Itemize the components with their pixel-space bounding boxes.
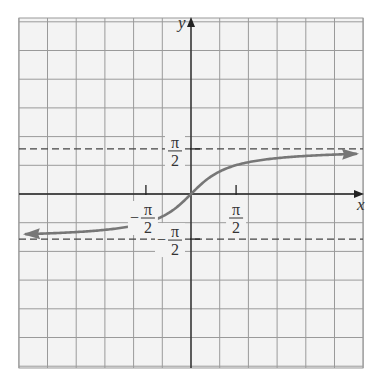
x-label-neg-pi-over-2-minus: − bbox=[130, 209, 139, 226]
arctan-graph: π2−π2π2π2−xy bbox=[0, 0, 372, 377]
x-label-pi-over-2-denominator: 2 bbox=[232, 219, 240, 236]
x-label-pi-over-2-numerator: π bbox=[232, 201, 240, 218]
y-label-pi-over-2-numerator: π bbox=[171, 134, 179, 151]
y-label-pi-over-2-denominator: 2 bbox=[171, 152, 179, 169]
y-label-neg-pi-over-2-minus: − bbox=[157, 231, 166, 248]
y-label-neg-pi-over-2-numerator: π bbox=[171, 223, 179, 240]
x-axis-label: x bbox=[356, 195, 365, 214]
x-label-neg-pi-over-2-numerator: π bbox=[144, 201, 152, 218]
y-label-neg-pi-over-2-denominator: 2 bbox=[171, 241, 179, 258]
x-label-neg-pi-over-2-denominator: 2 bbox=[144, 219, 152, 236]
y-axis-label: y bbox=[176, 13, 186, 32]
